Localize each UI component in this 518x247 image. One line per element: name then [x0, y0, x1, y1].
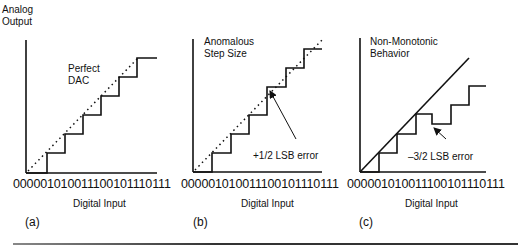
- panel-b-title: Anomalous Step Size: [204, 36, 254, 60]
- panel-a-label: (a): [25, 215, 40, 229]
- panel-a-x-label: Digital Input: [73, 198, 126, 209]
- panel-c-annotation: –3/2 LSB error: [408, 151, 473, 163]
- error-arrow: [434, 128, 446, 139]
- panel-a-plot: [26, 40, 157, 173]
- panel-b-tick-labels: 000001010011100101110111: [181, 177, 339, 191]
- panel-b-annotation: +1/2 LSB error: [253, 150, 318, 162]
- panel-c-label: (c): [359, 215, 373, 229]
- panel-c-tick-labels: 000001010011100101110111: [347, 177, 505, 191]
- panel-a-title: Perfect DAC: [68, 63, 100, 87]
- dac-transfer-plots: [0, 0, 518, 247]
- panel-a-tick-labels: 000001010011100101110111: [13, 177, 171, 191]
- panel-b-label: (b): [193, 215, 208, 229]
- panel-c-title: Non-Monotonic Behavior: [370, 36, 438, 60]
- panel-c-x-label: Digital Input: [405, 198, 458, 209]
- error-arrow: [270, 91, 296, 139]
- bottom-rule: [13, 243, 518, 245]
- panel-b-x-label: Digital Input: [241, 198, 294, 209]
